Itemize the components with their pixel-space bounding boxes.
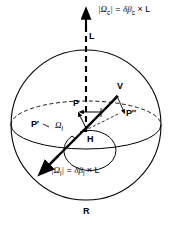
h-to-v-line <box>84 95 117 132</box>
point-P-prime-label: P′ <box>31 120 39 129</box>
projection-guide-dashed <box>84 113 120 131</box>
omega-c-L: L <box>145 4 150 14</box>
point-P-double-prime-label: P″ <box>126 109 136 118</box>
sphere-diagram-figure: |Ωc| = δβc × L L V P P″ P′ Ωl H |Ωl| = δ… <box>0 0 175 229</box>
angle-omega-l-label: Ωl <box>55 121 63 132</box>
point-V-label: V <box>117 82 123 91</box>
omega-l-equation-label: |Ωl| = δβl × L <box>51 166 100 177</box>
sphere-R-label: R <box>83 207 90 216</box>
point-P-label: P <box>73 99 79 108</box>
omega-c-equals: = <box>113 4 123 14</box>
diagram-canvas <box>0 0 175 229</box>
point-H-label: H <box>87 135 94 144</box>
pprime-tick <box>43 124 49 127</box>
omega-l-L: L <box>95 165 100 175</box>
omega-c-equation-label: |Ωc| = δβc × L <box>98 5 150 16</box>
axis-L-label: L <box>89 32 95 41</box>
angle-omega-subscript: l <box>62 125 63 132</box>
omega-l-equals: = <box>64 165 74 175</box>
omega-l-times: × <box>84 165 94 175</box>
omega-c-times: × <box>135 4 145 14</box>
